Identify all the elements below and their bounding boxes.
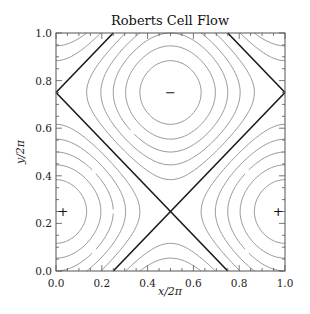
y-tick-label: 0.4 xyxy=(35,170,52,182)
y-tick-label: 0.0 xyxy=(35,265,52,277)
x-tick-label: 0.4 xyxy=(139,277,156,289)
minus-marker: − xyxy=(165,85,176,100)
separatrix-line xyxy=(56,93,228,272)
x-tick-label: 0.6 xyxy=(185,277,202,289)
plus-marker: + xyxy=(57,204,68,219)
chart-title: Roberts Cell Flow xyxy=(111,13,229,28)
x-tick-label: 1.0 xyxy=(277,277,294,289)
y-tick-label: 0.2 xyxy=(35,217,52,229)
separatrix-line xyxy=(113,93,285,272)
y-tick-label: 0.8 xyxy=(35,75,52,87)
x-tick-label: 0.0 xyxy=(48,277,65,289)
x-axis-label: x/2π xyxy=(158,285,183,298)
y-tick-label: 1.0 xyxy=(35,27,52,39)
y-tick-label: 0.6 xyxy=(35,122,52,134)
separatrix-line xyxy=(228,33,285,93)
y-axis-label: y/2π xyxy=(14,139,27,165)
contour-lines xyxy=(56,33,285,271)
plus-marker: + xyxy=(273,204,284,219)
x-tick-label: 0.8 xyxy=(231,277,248,289)
x-tick-label: 0.2 xyxy=(93,277,110,289)
extremum-markers: −++ xyxy=(57,85,283,219)
contour-chart: Roberts Cell Flow −++ 0.00.20.40.60.81.0… xyxy=(0,0,310,314)
y-tick-labels: 0.00.20.40.60.81.0 xyxy=(35,27,52,277)
separatrix-line xyxy=(56,33,113,93)
